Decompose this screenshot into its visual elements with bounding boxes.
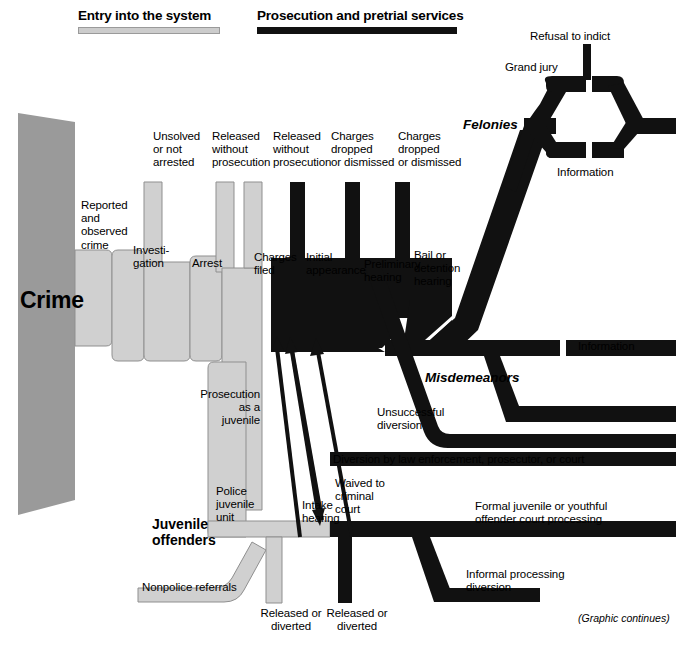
criminal-justice-flowchart: Entry into the system Prosecution and pr… [0,0,692,648]
label-felonies: Felonies [463,117,518,132]
exit-charges-dropped-stub-initial [290,182,305,258]
exit-refusal-to-indict [583,44,591,80]
label-charges-filed: Charges filed [254,251,297,277]
label-charges-dropped-or-dismissed-1: Charges dropped or dismissed [331,130,394,170]
header-prosecution-and-pretrial-services: Prosecution and pretrial services [257,8,464,23]
label-unsuccessful-diversion: Unsuccessful diversion [377,406,444,432]
label-police-juvenile-unit: Police juvenile unit [216,485,254,525]
label-released-without-prosecution-2: Released without prosecution [273,130,331,170]
label-prosecution-as-a-juvenile: Prosecution as a juvenile [160,388,260,428]
label-diversion-by-law-enforcement: Diversion by law enforcement, prosecutor… [333,453,584,466]
band-misdemeanor-lower [506,406,676,422]
label-preliminary-hearing: Preliminary hearing [364,258,420,284]
label-refusal-to-indict: Refusal to indict [530,30,610,43]
band-information-bottom-left [546,142,586,158]
label-released-or-diverted-2: Released or diverted [324,607,390,633]
graphic-continues-note: (Graphic continues) [578,612,670,624]
label-information-misdemeanor: Information [578,340,634,353]
band-felony-output [632,118,676,134]
exit-charges-dropped-stub-bail [395,182,410,258]
label-arrest: Arrest [192,257,222,270]
label-reported-and-observed-crime: Reported and observed crime [81,199,128,252]
label-released-or-diverted-1: Released or diverted [258,607,324,633]
crime-source-block [18,113,75,515]
label-juvenile-offenders: Juvenile offenders [152,516,216,548]
label-misdemeanors: Misdemeanors [425,370,520,385]
label-informal-processing-diversion: Informal processing diversion [466,568,564,594]
label-waived-to-criminal-court: Waived to criminal court [335,477,385,517]
label-nonpolice-referrals: Nonpolice referrals [142,581,237,594]
exit-released-or-diverted-1 [266,537,282,603]
band-investigation-to-arrest [144,262,190,361]
label-released-without-prosecution-1: Released without prosecution [212,130,270,170]
exit-charges-dropped-stub-prelim [345,182,360,258]
label-grand-jury: Grand jury [505,61,558,74]
label-unsolved-or-not-arrested: Unsolved or not arrested [153,130,200,170]
label-initial-appearance: Initial appearance [306,251,366,277]
header-entry-into-the-system: Entry into the system [78,8,211,23]
band-grand-jury-top-left [545,76,586,92]
label-investigation: Investi- gation [133,244,169,270]
label-charges-dropped-or-dismissed-2: Charges dropped or dismissed [398,130,461,170]
label-information-felony: Information [557,166,613,179]
label-crime: Crime [20,287,84,314]
flow-diagram-canvas [0,0,692,648]
header-bar-prosecution [257,27,457,34]
exit-released-or-diverted-2 [338,537,352,603]
label-bail-or-detention-hearing: Bail or detention hearing [414,249,460,289]
label-formal-juvenile-court-processing: Formal juvenile or youthful offender cou… [475,500,607,526]
header-bar-entry [78,27,220,34]
